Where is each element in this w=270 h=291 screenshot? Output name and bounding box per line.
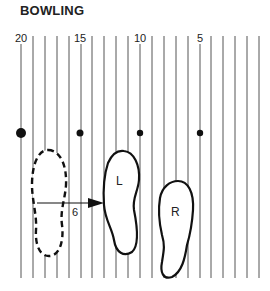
arrow-head-icon <box>88 198 104 208</box>
approach-dot-marker <box>77 130 84 137</box>
left-foot-outline <box>104 151 139 254</box>
bowling-approach-diagram: 2015105 6 L R <box>0 0 270 291</box>
board-number-label: 15 <box>74 32 86 44</box>
arrow-distance-label: 6 <box>72 206 78 218</box>
left-foot-label: L <box>116 174 123 188</box>
approach-dot-marker <box>197 130 203 136</box>
board-number-labels: 2015105 <box>15 32 203 44</box>
board-number-label: 5 <box>197 32 203 44</box>
approach-dot-marker <box>16 128 26 138</box>
right-foot-label: R <box>171 205 180 219</box>
approach-dot-marker <box>137 130 143 136</box>
approach-dots <box>16 128 203 138</box>
board-number-label: 20 <box>15 32 27 44</box>
board-number-label: 10 <box>134 32 146 44</box>
